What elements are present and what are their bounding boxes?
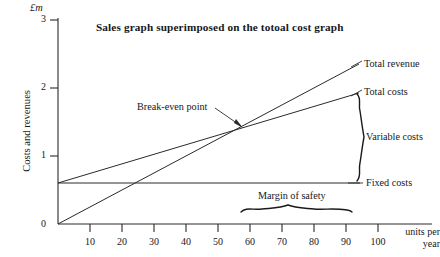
total-costs-line [58, 93, 359, 183]
x-tick-label-40: 40 [173, 236, 199, 247]
x-tick-label-30: 30 [141, 236, 167, 247]
total-costs-leader [351, 90, 362, 96]
margin-of-safety-brace [241, 205, 352, 212]
label-break-even-point: Break-even point [137, 101, 207, 112]
chart-canvas: Sales graph superimposed on the totoal c… [0, 0, 440, 257]
x-axis-title-line1: units per [396, 226, 440, 238]
y-tick-label-2: 2 [30, 81, 46, 92]
x-axis-title: units per year [396, 226, 440, 250]
y-axis-unit-label: £m [30, 2, 43, 14]
break-even-chart-graphic [0, 0, 440, 257]
chart-title: Sales graph superimposed on the totoal c… [96, 21, 344, 34]
break-even-arrow-head [234, 119, 243, 128]
x-tick-label-20: 20 [109, 236, 135, 247]
label-fixed-costs: Fixed costs [366, 177, 412, 188]
y-axis-ticks [50, 20, 58, 156]
x-tick-label-90: 90 [333, 236, 359, 247]
x-tick-label-60: 60 [237, 236, 263, 247]
label-total-revenue: Total revenue [364, 58, 420, 69]
variable-costs-brace [357, 94, 364, 181]
x-axis-title-line2: year [396, 238, 440, 250]
x-tick-label-80: 80 [301, 236, 327, 247]
y-tick-label-0: 0 [30, 218, 46, 229]
y-tick-label-3: 3 [30, 13, 46, 24]
x-axis-ticks [90, 224, 378, 232]
label-total-costs: Total costs [364, 86, 408, 97]
x-tick-label-50: 50 [205, 236, 231, 247]
label-variable-costs: Variable costs [366, 131, 423, 142]
x-tick-label-100: 100 [365, 236, 391, 247]
y-tick-label-1: 1 [30, 149, 46, 160]
label-margin-of-safety: Margin of safety [258, 190, 326, 201]
x-tick-label-70: 70 [269, 236, 295, 247]
x-tick-label-10: 10 [77, 236, 103, 247]
total-revenue-leader [351, 61, 362, 67]
